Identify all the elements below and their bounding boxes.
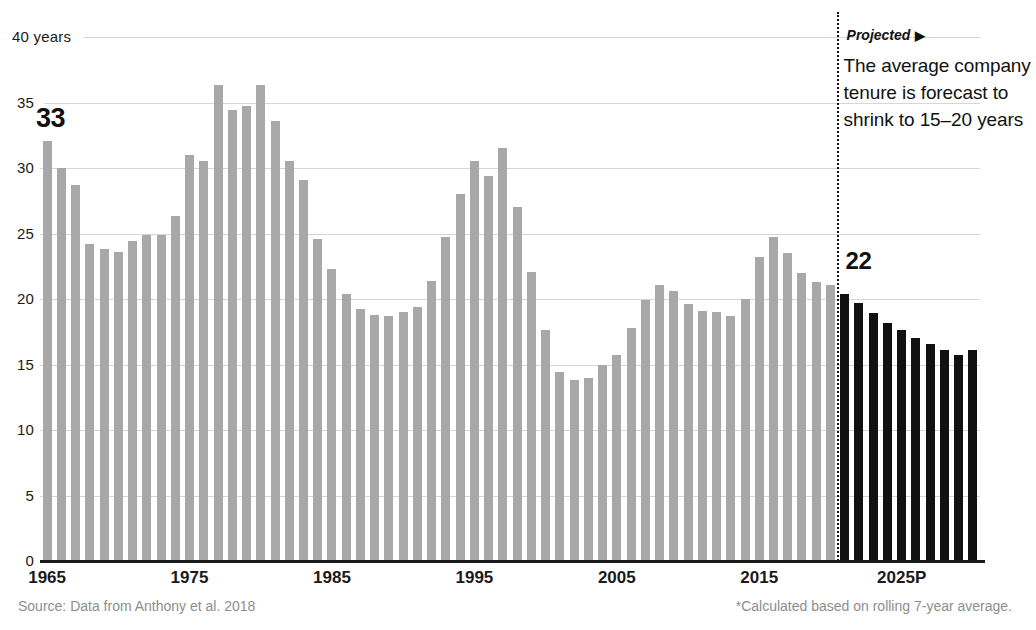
bar-1969: [100, 249, 109, 561]
bar-1996: [484, 176, 493, 561]
bar-1988: [370, 315, 379, 561]
bar-1987: [356, 309, 365, 561]
start-value-callout: 33: [36, 103, 65, 134]
y-axis-label-15: 15: [6, 356, 34, 373]
gridline-15: [40, 365, 980, 366]
bar-2009: [669, 291, 678, 561]
bar-1999: [527, 272, 536, 562]
bar-2002: [570, 380, 579, 561]
gridline-35: [44, 103, 980, 104]
y-axis-label-0: 0: [6, 552, 34, 569]
play-triangle-icon: ▶: [915, 28, 925, 43]
bar-2030: [968, 350, 977, 561]
x-axis-baseline: [40, 560, 985, 563]
bar-2021: [840, 294, 849, 561]
bar-1994: [456, 194, 465, 561]
bar-1974: [171, 216, 180, 561]
bar-2001: [555, 372, 564, 561]
bar-2028: [940, 350, 949, 561]
bar-1982: [285, 161, 294, 561]
method-note: *Calculated based on rolling 7-year aver…: [736, 598, 1012, 614]
bar-1997: [498, 148, 507, 561]
bar-1980: [256, 85, 265, 561]
x-axis-label-2005: 2005: [598, 568, 636, 588]
bar-1983: [299, 180, 308, 561]
bar-1991: [413, 307, 422, 561]
x-axis-label-1975: 1975: [171, 568, 209, 588]
bar-1990: [399, 312, 408, 561]
bar-2000: [541, 330, 550, 561]
x-axis-label-2025: 2025P: [877, 568, 926, 588]
bar-1978: [228, 110, 237, 561]
bar-1966: [57, 168, 66, 561]
bar-2027: [926, 344, 935, 561]
x-axis-label-1985: 1985: [313, 568, 351, 588]
bar-1992: [427, 281, 436, 561]
projected-divider-line: [837, 12, 839, 561]
bar-1972: [142, 235, 151, 561]
bar-1976: [199, 161, 208, 561]
bar-2004: [598, 365, 607, 562]
plot-area: [40, 37, 980, 561]
bar-2015: [755, 257, 764, 561]
bar-2029: [954, 355, 963, 561]
x-axis-label-1995: 1995: [455, 568, 493, 588]
bar-2005: [612, 355, 621, 561]
y-axis-label-40: 40 years: [12, 28, 71, 45]
bar-2008: [655, 285, 664, 561]
projected-label-text: Projected: [847, 27, 911, 43]
bar-2011: [698, 311, 707, 561]
bar-1973: [157, 235, 166, 561]
bar-1975: [185, 155, 194, 561]
bar-2019: [812, 282, 821, 561]
bar-1984: [313, 239, 322, 561]
bar-2024: [883, 323, 892, 561]
bar-2016: [769, 237, 778, 561]
x-axis-label-1965: 1965: [28, 568, 66, 588]
bar-2022: [854, 303, 863, 561]
bar-2007: [641, 300, 650, 561]
gridline-5: [40, 496, 980, 497]
y-axis-label-35: 35: [6, 94, 34, 111]
projection-value-callout: 22: [846, 247, 872, 275]
bar-2014: [741, 299, 750, 561]
y-axis-label-30: 30: [6, 159, 34, 176]
bar-1993: [441, 237, 450, 561]
y-axis-label-25: 25: [6, 225, 34, 242]
projection-note: The average company tenure is forecast t…: [844, 53, 1036, 134]
bar-2026: [911, 338, 920, 561]
bar-2003: [584, 378, 593, 561]
bar-2025: [897, 330, 906, 561]
bar-2006: [627, 328, 636, 561]
bar-1967: [71, 185, 80, 561]
y-axis-label-20: 20: [6, 290, 34, 307]
bar-2013: [726, 316, 735, 561]
bar-1989: [384, 316, 393, 561]
gridline-25: [40, 234, 980, 235]
projected-label: Projected▶: [847, 27, 926, 43]
bar-1965: [43, 141, 52, 562]
bar-1977: [214, 85, 223, 561]
bar-2020: [826, 285, 835, 561]
x-axis-label-2015: 2015: [740, 568, 778, 588]
bar-1981: [271, 121, 280, 561]
bar-1998: [513, 207, 522, 561]
y-axis-label-10: 10: [6, 421, 34, 438]
bar-2023: [869, 313, 878, 561]
bar-1979: [242, 106, 251, 561]
bar-1971: [128, 241, 137, 561]
bar-1985: [327, 269, 336, 561]
gridline-20: [40, 299, 980, 300]
gridline-30: [40, 168, 980, 169]
bar-2018: [797, 273, 806, 561]
source-note: Source: Data from Anthony et al. 2018: [18, 598, 255, 614]
gridline-10: [40, 430, 980, 431]
y-axis-label-5: 5: [6, 487, 34, 504]
bar-1970: [114, 252, 123, 561]
bar-1995: [470, 161, 479, 561]
bar-2010: [684, 304, 693, 561]
bar-2012: [712, 312, 721, 561]
bar-2017: [783, 253, 792, 561]
bar-1968: [85, 244, 94, 561]
